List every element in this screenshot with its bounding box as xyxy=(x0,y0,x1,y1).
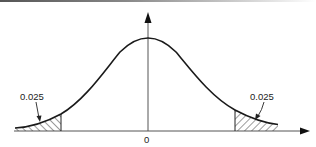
left-tail-label: 0.025 xyxy=(20,92,44,102)
right-pointer-arrow-icon xyxy=(255,114,261,121)
left-pointer xyxy=(36,102,39,118)
x-axis-arrow-icon xyxy=(300,128,310,135)
bell-curve-diagram xyxy=(0,0,316,147)
y-axis-arrow-icon xyxy=(145,12,152,23)
right-pointer xyxy=(258,102,264,116)
zero-tick-label: 0 xyxy=(144,135,149,145)
left-pointer-arrow-icon xyxy=(37,116,42,123)
right-tail-label: 0.025 xyxy=(250,92,274,102)
